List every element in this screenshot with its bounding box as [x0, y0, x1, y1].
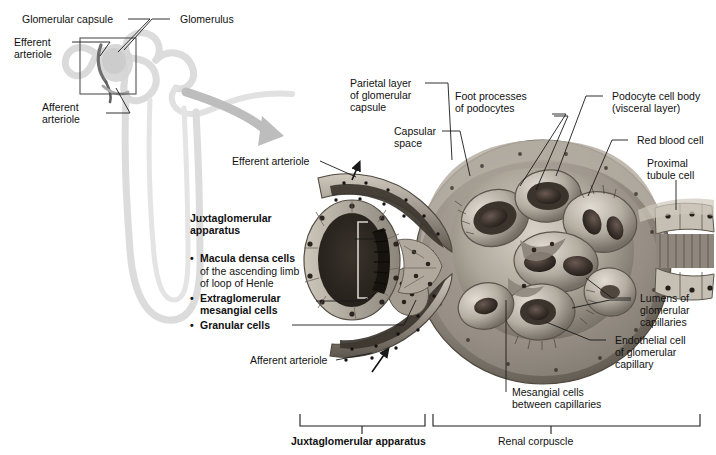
label-foot-processes: Foot processes of podocytes [455, 90, 527, 114]
bracket-label-renal-corpuscle: Renal corpuscle [498, 435, 573, 447]
label-afferent-arteriole-detail: Afferent arteriole [250, 354, 327, 366]
diagram-artwork [0, 0, 716, 455]
jga-item-extraglomerular-bold: Extraglomerular mesangial cells [200, 292, 281, 316]
label-afferent-arteriole-overview: Afferent arteriole [42, 101, 80, 125]
label-efferent-arteriole-detail: Efferent arteriole [232, 155, 309, 167]
label-podocyte-cell-body: Podocyte cell body (visceral layer) [612, 90, 700, 114]
figure-canvas: Glomerular capsule Glomerulus Efferent a… [0, 0, 716, 455]
distal-tubule-macula-densa [304, 200, 400, 320]
label-parietal-layer: Parietal layer of glomerular capsule [350, 77, 411, 114]
jga-bullet-3: • [190, 319, 194, 331]
label-lumens-glomerular-capillaries: Lumens of glomerular capillaries [640, 292, 690, 329]
jga-item-macula-densa-plain: of the ascending limb of loop of Henle [200, 265, 299, 289]
jga-item-macula-densa-bold: Macula densa cells [200, 252, 295, 264]
label-proximal-tubule-cell: Proximal tubule cell [647, 157, 694, 181]
label-glomerular-capsule: Glomerular capsule [22, 13, 113, 25]
label-endothelial-cell: Endothelial cell of glomerular capillary [615, 334, 686, 371]
bracket-label-jga: Juxtaglomerular apparatus [291, 435, 426, 447]
label-red-blood-cell: Red blood cell [637, 134, 704, 146]
jga-item-granular-bold: Granular cells [200, 319, 270, 331]
jga-bullet-2: • [190, 292, 194, 304]
jga-legend-heading: Juxtaglomerular apparatus [190, 212, 272, 236]
label-glomerulus: Glomerulus [180, 13, 234, 25]
label-capsular-space: Capsular space [394, 125, 436, 149]
proximal-tubule-cells [655, 203, 714, 300]
label-mesangial-cells: Mesangial cells between capillaries [512, 386, 601, 410]
label-efferent-arteriole-overview: Efferent arteriole [14, 36, 52, 60]
jga-bullet-1: • [190, 252, 194, 264]
bottom-brackets [300, 414, 700, 434]
